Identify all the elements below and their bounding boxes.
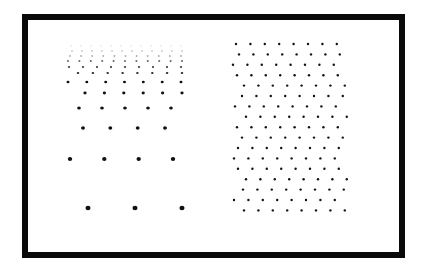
dot	[252, 53, 254, 55]
dot	[180, 55, 182, 57]
dot	[241, 136, 243, 138]
dot	[261, 64, 263, 66]
dot	[124, 66, 126, 68]
dot	[338, 147, 340, 149]
dot	[85, 81, 88, 84]
dot	[331, 116, 333, 118]
dot	[337, 126, 339, 128]
dot	[302, 178, 304, 180]
dot	[334, 157, 336, 159]
dot	[171, 50, 173, 51]
dot	[237, 147, 239, 149]
dot	[280, 168, 282, 170]
dot	[295, 53, 297, 55]
dot	[111, 50, 113, 51]
dot	[277, 105, 279, 107]
dot	[343, 188, 345, 190]
dot	[67, 81, 70, 84]
dot	[247, 157, 249, 159]
dot	[321, 43, 323, 45]
dot	[314, 188, 316, 190]
dot	[276, 199, 278, 201]
dot	[171, 157, 175, 161]
dot	[344, 209, 346, 211]
dot	[82, 66, 84, 68]
dot	[135, 60, 137, 62]
dot	[257, 84, 259, 86]
dot	[130, 45, 131, 46]
dot	[342, 95, 344, 97]
dot	[262, 199, 264, 201]
dot	[322, 74, 324, 76]
dot	[169, 55, 171, 57]
dot	[286, 209, 288, 211]
dot	[147, 60, 149, 62]
dot	[333, 64, 335, 66]
dot	[323, 168, 325, 170]
dot	[272, 209, 274, 211]
dot	[279, 126, 281, 128]
dot	[308, 74, 310, 76]
dot	[259, 178, 261, 180]
dot	[241, 95, 243, 97]
dot	[270, 136, 272, 138]
dot	[236, 126, 238, 128]
dot	[289, 64, 291, 66]
dot	[237, 168, 239, 170]
dot	[136, 72, 139, 74]
dot	[122, 92, 125, 95]
dot	[113, 55, 115, 57]
dot	[299, 188, 301, 190]
dot	[96, 66, 98, 68]
dot	[70, 45, 71, 46]
dot	[322, 126, 324, 128]
dot	[108, 126, 112, 129]
dot	[91, 50, 93, 51]
dot	[235, 43, 237, 45]
dot	[170, 60, 172, 62]
dot	[140, 45, 141, 46]
dot	[141, 50, 143, 51]
dot	[102, 157, 106, 161]
dot	[313, 136, 315, 138]
dot	[245, 178, 247, 180]
dot	[131, 50, 133, 51]
dot	[104, 81, 107, 84]
dot	[327, 95, 329, 97]
dot	[146, 106, 150, 109]
dot	[121, 50, 123, 51]
dot	[77, 72, 80, 74]
dot	[90, 45, 91, 46]
dot	[90, 60, 92, 62]
dot	[106, 72, 109, 74]
dot	[101, 60, 103, 62]
dot	[180, 45, 181, 46]
dot	[251, 168, 253, 170]
dot	[329, 84, 331, 86]
dot	[290, 157, 292, 159]
dot	[339, 53, 341, 55]
dot	[243, 209, 245, 211]
dot	[286, 84, 288, 86]
dot	[334, 199, 336, 201]
dot	[110, 66, 112, 68]
dot	[257, 209, 259, 211]
dot	[152, 66, 154, 68]
dot	[100, 45, 101, 46]
dot	[83, 92, 86, 95]
dot	[276, 157, 278, 159]
dot	[142, 81, 145, 84]
dot	[302, 116, 304, 118]
dot	[324, 53, 326, 55]
dot	[315, 84, 317, 86]
dot	[180, 92, 183, 95]
dot	[69, 55, 71, 57]
dot	[161, 50, 163, 51]
dot	[138, 66, 140, 68]
dot	[245, 116, 247, 118]
dot	[281, 53, 283, 55]
dot	[120, 45, 121, 46]
dot	[305, 199, 307, 201]
dot	[271, 188, 273, 190]
dot	[284, 136, 286, 138]
